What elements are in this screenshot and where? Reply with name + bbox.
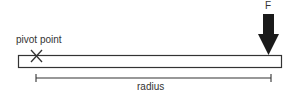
radius-label: radius	[137, 82, 164, 92]
force-label: F	[265, 1, 271, 11]
force-arrow-icon	[258, 14, 279, 55]
pivot-point-label: pivot point	[16, 35, 62, 45]
lever-bar	[19, 56, 282, 68]
torque-diagram: pivot point F radius	[0, 0, 298, 98]
